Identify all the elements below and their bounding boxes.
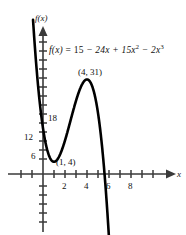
x-tick-label-8: 8 (128, 182, 133, 191)
y-tick-label-6: 6 (31, 152, 36, 161)
equation-quadratic-exponent: 2 (136, 43, 139, 50)
y-tick-label-12: 12 (24, 133, 33, 142)
equation-quadratic-term: + 15x (112, 45, 136, 55)
y-axis-arrow-icon (39, 26, 48, 36)
equation-lhs: f(x) (49, 45, 63, 55)
graph-figure: f(x) x f(x) = 15 − 24x + 15x2 − 2x3 18 1… (0, 0, 186, 235)
equation-equals: = (66, 45, 72, 55)
x-tick-label-4: 4 (84, 182, 89, 191)
equation-constant: 15 (74, 45, 84, 55)
equation-cubic-term: − 2x (142, 45, 161, 55)
local-minimum-label: (1, 4) (56, 158, 76, 167)
y-tick-label-18: 18 (48, 114, 57, 123)
cubic-function-plot (0, 0, 186, 235)
function-equation: f(x) = 15 − 24x + 15x2 − 2x3 (49, 46, 164, 56)
y-axis-label: f(x) (35, 14, 48, 23)
x-axis-arrow-icon (166, 170, 176, 179)
local-maximum-label: (4, 31) (78, 68, 102, 77)
x-tick-label-2: 2 (62, 182, 67, 191)
equation-linear-term: − 24x (86, 45, 110, 55)
equation-cubic-exponent: 3 (160, 43, 163, 50)
x-tick-label-6: 6 (106, 182, 111, 191)
x-axis-label: x (177, 170, 181, 179)
